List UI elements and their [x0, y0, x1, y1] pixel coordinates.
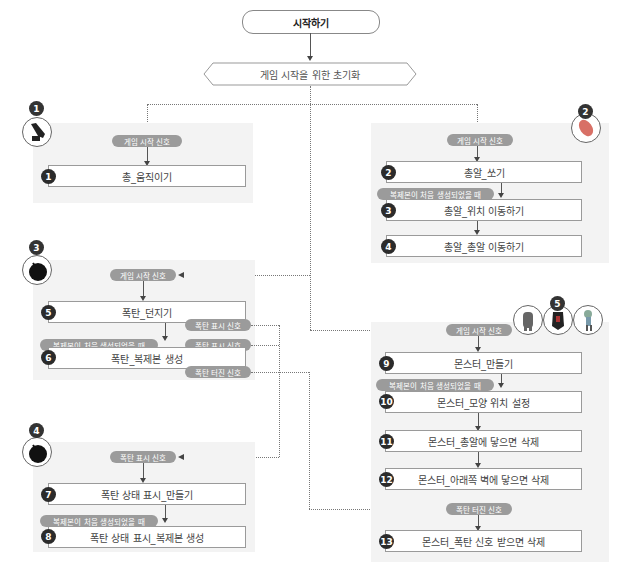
step-number: 2 — [381, 165, 396, 180]
step-number: 4 — [381, 239, 396, 254]
init-label: 게임 시작을 위한 초기화 — [203, 62, 417, 86]
section-badge: 1 — [29, 101, 44, 116]
dotted-connector — [251, 345, 279, 346]
connector — [165, 505, 166, 519]
dotted-connector — [147, 104, 477, 105]
arrow-left-icon — [178, 454, 184, 460]
dotted-connector — [251, 372, 309, 373]
signal-bomb-show: 폭탄 표시 신호 — [185, 319, 251, 331]
section-badge: 4 — [29, 423, 44, 438]
step-number: 5 — [41, 305, 56, 320]
step-10: 몬스터_모양 위치 설정 — [385, 391, 582, 413]
step-number: 13 — [379, 534, 394, 549]
arrow-down-icon — [498, 193, 504, 198]
step-number: 7 — [41, 487, 56, 502]
signal-clone-start: 복제본이 처음 생성되었을 때 — [376, 379, 494, 391]
signal-game-start: 게임 시작 신호 — [446, 324, 512, 336]
connector — [310, 33, 311, 57]
step-number: 1 — [41, 169, 56, 184]
step-8: 폭탄 상태 표시_복제본 생성 — [48, 526, 246, 548]
connector — [501, 183, 502, 193]
bomb-icon — [22, 437, 52, 467]
step-number: 9 — [379, 356, 394, 371]
arrow-down-icon — [162, 518, 168, 523]
monster-3-icon — [573, 305, 603, 335]
step-number: 11 — [379, 434, 394, 449]
dotted-connector — [309, 372, 310, 509]
step-number: 6 — [41, 350, 56, 365]
connector — [478, 413, 479, 427]
arrow-down-icon — [162, 336, 168, 341]
step-12: 몬스터_아래쪽 벽에 닿으면 삭제 — [385, 468, 582, 490]
arrow-down-icon — [498, 383, 504, 388]
step-4: 총알_총알 이동하기 — [386, 235, 582, 257]
arrow-left-icon — [178, 272, 184, 278]
connector — [147, 147, 148, 161]
signal-game-start: 게임 시작 신호 — [447, 134, 513, 146]
section-badge: 2 — [578, 104, 593, 119]
step-11: 몬스터_총알에 닿으면 삭제 — [385, 430, 582, 452]
step-1: 총_움직이기 — [48, 165, 246, 187]
step-9: 몬스터_만들기 — [385, 352, 582, 374]
monster-1-icon — [513, 305, 543, 335]
step-2: 총알_쏘기 — [386, 161, 582, 183]
arrow-down-icon — [307, 56, 313, 61]
step-7: 폭탄 상태 표시_만들기 — [48, 483, 246, 505]
section-badge: 5 — [550, 296, 565, 311]
signal-bomb-show: 폭탄 표시 신호 — [110, 451, 176, 463]
step-3: 총알_위치 이동하기 — [386, 199, 582, 221]
step-number: 10 — [379, 394, 394, 409]
dotted-connector — [251, 325, 279, 326]
connector — [143, 281, 144, 297]
gun-icon — [22, 117, 52, 147]
step-number: 12 — [379, 472, 394, 487]
signal-game-start: 게임 시작 신호 — [110, 269, 176, 281]
dotted-connector — [310, 86, 311, 330]
signal-bomb-explode: 폭탄 터진 신호 — [185, 366, 251, 378]
step-13: 몬스터_폭탄 신호 받으면 삭제 — [385, 530, 582, 552]
signal-bomb-explode: 폭탄 터진 신호 — [446, 503, 512, 515]
step-number: 3 — [381, 203, 396, 218]
start-node: 시작하기 — [242, 10, 380, 34]
section-badge: 3 — [29, 240, 44, 255]
connector — [165, 323, 166, 337]
dotted-connector — [279, 325, 280, 457]
bomb-icon — [22, 255, 52, 285]
connector — [143, 463, 144, 479]
step-number: 8 — [41, 529, 56, 544]
signal-game-start: 게임 시작 신호 — [112, 135, 182, 147]
